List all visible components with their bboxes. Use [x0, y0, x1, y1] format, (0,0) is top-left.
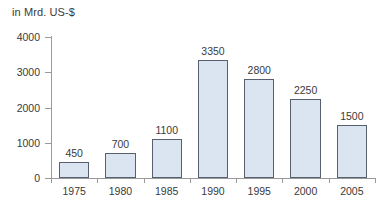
x-axis-category-label: 1990	[201, 185, 224, 197]
bar	[244, 79, 274, 178]
y-axis-unit-label: in Mrd. US-$	[12, 6, 75, 18]
bar-chart: in Mrd. US-$ 01000200030004000 450700110…	[0, 0, 392, 205]
x-axis-category-label: 1985	[155, 185, 178, 197]
bar-value-label: 1500	[340, 110, 363, 122]
x-axis-tick	[51, 178, 52, 183]
x-axis-tick	[190, 178, 191, 183]
bar-value-label: 2250	[294, 84, 317, 96]
bar	[198, 60, 228, 178]
y-axis-tick-label: 0	[34, 172, 40, 184]
bar-value-label: 450	[65, 147, 83, 159]
bar	[290, 99, 320, 178]
bar-value-label: 3350	[201, 45, 224, 57]
x-axis-category-label: 2000	[294, 185, 317, 197]
bar-value-label: 2800	[248, 64, 271, 76]
x-axis-tick	[144, 178, 145, 183]
x-axis-tick	[329, 178, 330, 183]
bar	[105, 153, 135, 178]
x-axis-category-label: 1980	[109, 185, 132, 197]
y-axis-tick	[45, 37, 51, 38]
y-axis-line	[51, 36, 52, 179]
bar	[337, 125, 367, 178]
x-axis-tick	[236, 178, 237, 183]
x-axis-category-label: 1975	[62, 185, 85, 197]
y-axis-tick	[45, 143, 51, 144]
y-axis-tick	[45, 108, 51, 109]
y-axis-tick-label: 1000	[17, 137, 40, 149]
x-axis-line	[51, 178, 376, 179]
x-axis-category-label: 1995	[248, 185, 271, 197]
y-axis-tick-label: 3000	[17, 66, 40, 78]
y-axis-tick-label: 2000	[17, 102, 40, 114]
bar	[152, 139, 182, 178]
bar-value-label: 700	[112, 138, 130, 150]
bar-value-label: 1100	[155, 124, 178, 136]
x-axis-category-label: 2005	[340, 185, 363, 197]
x-axis-tick	[375, 178, 376, 183]
y-axis-tick	[45, 72, 51, 73]
y-axis-tick-label: 4000	[17, 31, 40, 43]
bar	[59, 162, 89, 178]
x-axis-tick	[282, 178, 283, 183]
x-axis-tick	[97, 178, 98, 183]
